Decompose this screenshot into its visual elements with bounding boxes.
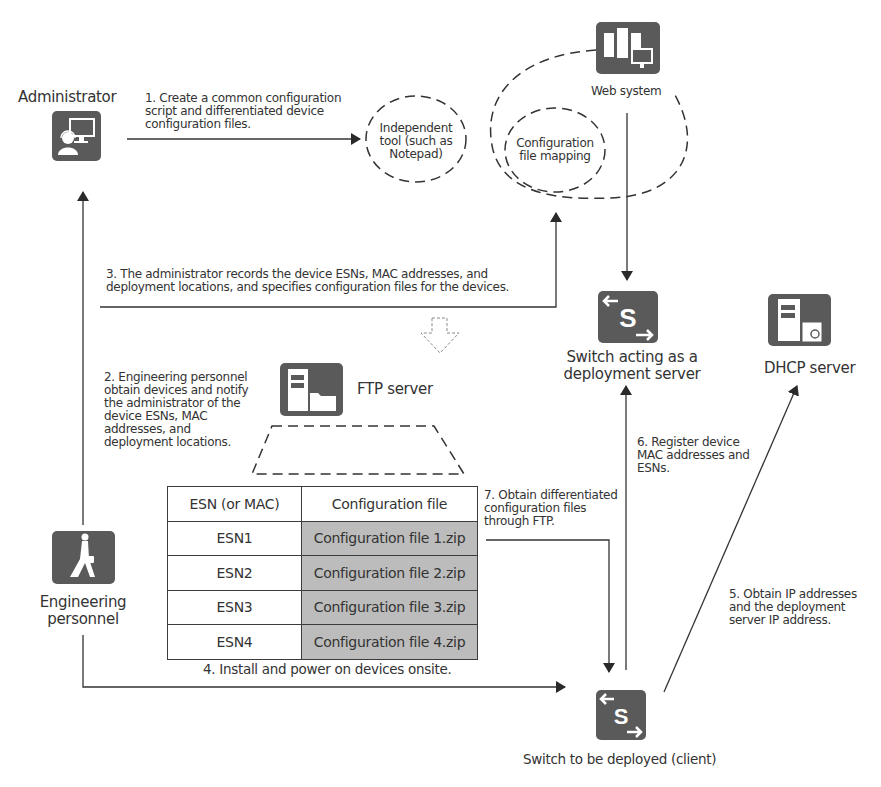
step3-text: 3. The administrator records the device … xyxy=(106,268,509,294)
svg-text:S: S xyxy=(614,704,629,729)
table-header-config-file: Configuration file xyxy=(302,487,478,522)
step6-text: 6. Register device MAC addresses and ESN… xyxy=(637,436,750,475)
table-cell-esn: ESN4 xyxy=(168,625,302,660)
table-header-esn: ESN (or MAC) xyxy=(168,487,302,522)
table-cell-config-file: Configuration file 2.zip xyxy=(302,556,478,591)
ftp-server-label: FTP server xyxy=(357,381,433,398)
table-cell-config-file: Configuration file 1.zip xyxy=(302,521,478,556)
table-header-row: ESN (or MAC) Configuration file xyxy=(168,487,478,522)
arrow-step7 xyxy=(486,540,609,672)
table-cell-config-file: Configuration file 3.zip xyxy=(302,590,478,625)
table-cell-esn: ESN2 xyxy=(168,556,302,591)
svg-text:S: S xyxy=(619,303,636,333)
step7-text: 7. Obtain differentiated configuration f… xyxy=(484,489,617,528)
table-row: ESN2 Configuration file 2.zip xyxy=(168,556,478,591)
dhcp-server-label: DHCP server xyxy=(764,360,855,377)
table-row: ESN3 Configuration file 3.zip xyxy=(168,590,478,625)
client-switch-label: Switch to be deployed (client) xyxy=(523,752,716,767)
ftp-server-icon xyxy=(280,363,343,416)
web-system-icon xyxy=(596,22,660,74)
administrator-label: Administrator xyxy=(18,89,116,106)
table-cell-esn: ESN3 xyxy=(168,590,302,625)
esn-config-mapping-table: ESN (or MAC) Configuration file ESN1 Con… xyxy=(167,486,478,660)
arrow-step5 xyxy=(664,386,797,692)
table-row: ESN1 Configuration file 1.zip xyxy=(168,521,478,556)
deployment-server-switch-icon: S xyxy=(598,291,658,343)
engineering-personnel-label: Engineering personnel xyxy=(33,594,133,628)
deployment-server-label: Switch acting as a deployment server xyxy=(562,349,702,383)
config-mapping-label: Configuration file mapping xyxy=(505,137,605,163)
hollow-down-arrow xyxy=(421,318,459,353)
step2-text: 2. Engineering personnel obtain devices … xyxy=(104,371,248,449)
administrator-icon xyxy=(52,111,101,161)
ftp-trapezoid xyxy=(252,426,464,474)
independent-tool-label: Independent tool (such as Notepad) xyxy=(366,122,466,161)
client-switch-icon: S xyxy=(596,690,646,740)
table-cell-esn: ESN1 xyxy=(168,521,302,556)
web-system-label: Web system xyxy=(591,85,661,98)
table-cell-config-file: Configuration file 4.zip xyxy=(302,625,478,660)
step4-text: 4. Install and power on devices onsite. xyxy=(203,662,451,677)
dhcp-server-icon xyxy=(768,294,831,346)
step5-text: 5. Obtain IP addresses and the deploymen… xyxy=(729,588,857,627)
step1-text: 1. Create a common configuration script … xyxy=(145,92,341,131)
engineer-icon xyxy=(52,531,115,584)
table-row: ESN4 Configuration file 4.zip xyxy=(168,625,478,660)
